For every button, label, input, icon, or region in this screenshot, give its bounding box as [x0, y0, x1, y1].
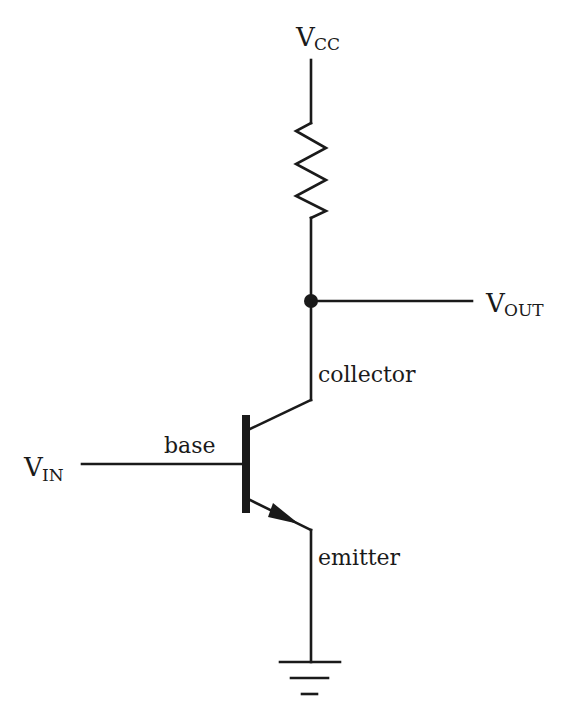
circuit-diagram: V CC V OUT collector base V IN emitter [0, 0, 573, 720]
collector-label: collector [318, 362, 416, 387]
vin-label-main: V [23, 452, 44, 482]
ground-icon [280, 662, 340, 694]
vin-label-sub: IN [42, 465, 64, 485]
emitter-arrow-icon [268, 503, 299, 524]
collector-lead [250, 400, 311, 429]
base-label: base [164, 433, 216, 458]
vcc-label-sub: CC [314, 34, 340, 54]
emitter-label: emitter [318, 545, 401, 570]
vcc-label: V CC [295, 22, 340, 54]
vout-label-main: V [485, 288, 506, 318]
vout-label-sub: OUT [504, 300, 544, 320]
vin-label: V IN [23, 452, 64, 485]
resistor-icon [296, 123, 326, 218]
vout-label: V OUT [485, 288, 544, 320]
vcc-label-main: V [295, 22, 316, 52]
npn-transistor-icon [242, 400, 311, 530]
